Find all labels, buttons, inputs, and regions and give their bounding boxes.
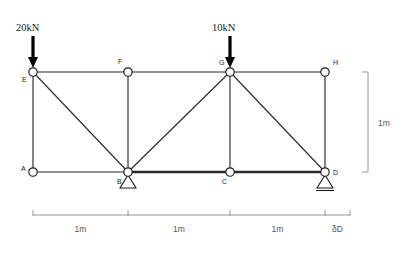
diagonal-GD [230,72,325,172]
node-label-F: F [118,58,122,65]
node-label-A: A [21,165,26,172]
joint-F [124,68,132,76]
joint-G [226,68,234,76]
truss-members-group [33,72,325,172]
dim-height-label: 1m [378,118,390,128]
node-label-G: G [219,59,224,66]
load-at-G-label: 10kN [212,22,236,33]
support-roller-D [316,175,334,191]
dim-deflection-label: δD [332,224,343,234]
dim-span-2-label: 1m [173,224,185,234]
node-label-C: C [222,178,227,185]
applied-loads-group: 20kN10kN [16,22,236,68]
node-label-H: H [333,59,338,66]
load-at-E: 20kN [16,22,40,68]
joint-A [29,168,37,176]
truss-diagram-canvas: EFGHABCD 20kN10kN 1m1m1mδD1m [0,0,402,253]
load-at-G-arrowhead [225,57,235,68]
support-roller-D-triangle [317,175,333,188]
joint-C [226,168,234,176]
node-label-E: E [22,76,27,83]
horizontal-dimension-chain: 1m1m1mδD [33,210,350,234]
load-at-E-label: 20kN [16,22,40,33]
joint-B [124,168,132,176]
node-label-D: D [333,169,338,176]
dim-span-3-label: 1m [272,224,284,234]
diagonal-EB [33,72,128,172]
dim-span-1-label: 1m [75,224,87,234]
dim-height: 1m [362,72,390,172]
support-pin-B [120,175,136,188]
truss-figure: EFGHABCD 20kN10kN 1m1m1mδD1m [0,0,402,253]
load-at-E-arrowhead [28,57,38,68]
joint-E [29,68,37,76]
joint-H [321,68,329,76]
node-label-B: B [117,178,122,185]
support-pin-B-triangle [120,175,136,188]
joint-D [321,168,329,176]
diagonal-BG [128,72,230,172]
dimension-annotations-group: 1m1m1mδD1m [33,72,390,234]
